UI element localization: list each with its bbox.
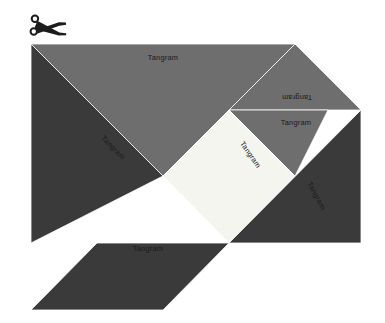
tangram-label-medium-triangle-right: Tangram xyxy=(282,93,313,102)
tangram-canvas: TangramTangramTangramTangramTangramTangr… xyxy=(0,0,385,323)
tangram-figure: TangramTangramTangramTangramTangramTangr… xyxy=(0,0,385,323)
tangram-label-parallelogram-bottom: Tangram xyxy=(133,244,164,253)
tangram-label-large-triangle-top: Tangram xyxy=(148,53,179,62)
tangram-label-small-triangle-right: Tangram xyxy=(281,118,312,127)
scissors-pivot xyxy=(35,26,38,30)
